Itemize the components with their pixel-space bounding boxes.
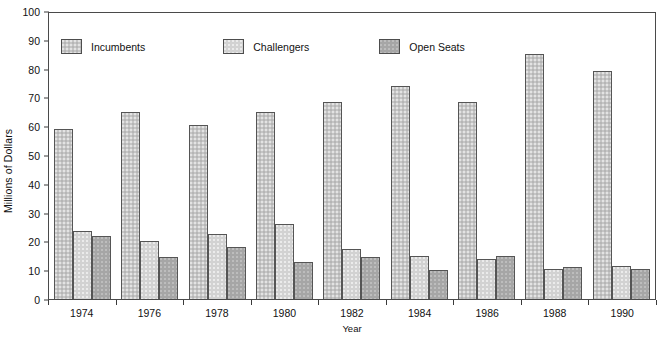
- y-tick-label: 70: [28, 92, 40, 104]
- bar-group: [251, 13, 318, 299]
- bar-groups: [49, 13, 655, 299]
- bar-group: [49, 13, 116, 299]
- bar-open-seats[interactable]: [631, 269, 650, 299]
- bar-open-seats[interactable]: [563, 267, 582, 299]
- x-tick-mark: [656, 300, 657, 305]
- y-tick-label: 50: [28, 150, 40, 162]
- bar-open-seats[interactable]: [496, 256, 515, 299]
- x-tick-mark: [588, 300, 589, 305]
- x-axis-label: 1988: [521, 307, 589, 319]
- y-axis-title: Millions of Dollars: [0, 0, 16, 342]
- x-axis-label: 1990: [589, 307, 657, 319]
- y-tick-label: 10: [28, 265, 40, 277]
- x-axis-label: 1978: [183, 307, 251, 319]
- bar-incumbents[interactable]: [189, 125, 208, 299]
- x-tick-mark: [183, 300, 184, 305]
- x-axis-label: 1984: [386, 307, 454, 319]
- bar-group: [520, 13, 587, 299]
- bar-challengers[interactable]: [73, 231, 92, 299]
- bar-incumbents[interactable]: [593, 71, 612, 299]
- bar-group: [318, 13, 385, 299]
- bar-challengers[interactable]: [477, 259, 496, 299]
- bar-open-seats[interactable]: [227, 247, 246, 299]
- y-tick-label: 40: [28, 179, 40, 191]
- x-tick-mark: [116, 300, 117, 305]
- y-tick-label: 30: [28, 208, 40, 220]
- bar-challengers[interactable]: [140, 241, 159, 299]
- plot-frame: Incumbents Challengers Open Seats: [48, 12, 656, 300]
- x-tick-mark: [521, 300, 522, 305]
- bar-incumbents[interactable]: [458, 102, 477, 299]
- bar-challengers[interactable]: [208, 234, 227, 299]
- bar-open-seats[interactable]: [429, 270, 448, 299]
- bar-chart: Millions of Dollars 01020304050607080901…: [0, 0, 666, 342]
- bar-incumbents[interactable]: [391, 86, 410, 299]
- x-axis-label: 1980: [251, 307, 319, 319]
- bar-incumbents[interactable]: [323, 102, 342, 299]
- bar-open-seats[interactable]: [159, 257, 178, 299]
- bar-incumbents[interactable]: [256, 112, 275, 299]
- y-tick-label: 90: [28, 35, 40, 47]
- bar-challengers[interactable]: [342, 249, 361, 299]
- bar-group: [453, 13, 520, 299]
- x-axis-label: 1976: [116, 307, 184, 319]
- y-tick-label: 80: [28, 64, 40, 76]
- bar-group: [588, 13, 655, 299]
- x-tick-mark: [318, 300, 319, 305]
- y-tick-label: 0: [34, 294, 40, 306]
- x-axis-title: Year: [48, 323, 656, 334]
- x-axis-ticks: [48, 300, 656, 306]
- x-tick-mark: [453, 300, 454, 305]
- bar-challengers[interactable]: [410, 256, 429, 299]
- x-axis-labels: 197419761978198019821984198619881990: [48, 307, 656, 319]
- bar-challengers[interactable]: [544, 269, 563, 299]
- x-axis-label: 1982: [318, 307, 386, 319]
- bar-open-seats[interactable]: [92, 236, 111, 299]
- x-axis-label: 1974: [48, 307, 116, 319]
- x-tick-mark: [48, 300, 49, 305]
- bar-incumbents[interactable]: [54, 129, 73, 299]
- x-tick-mark: [251, 300, 252, 305]
- bar-challengers[interactable]: [275, 224, 294, 299]
- y-tick-label: 20: [28, 236, 40, 248]
- plot-area: Incumbents Challengers Open Seats: [49, 13, 655, 299]
- bar-challengers[interactable]: [612, 266, 631, 299]
- bar-group: [386, 13, 453, 299]
- bar-group: [116, 13, 183, 299]
- bar-open-seats[interactable]: [294, 262, 313, 299]
- x-tick-mark: [386, 300, 387, 305]
- bar-incumbents[interactable]: [121, 112, 140, 299]
- bar-open-seats[interactable]: [361, 257, 380, 299]
- bar-group: [184, 13, 251, 299]
- bar-incumbents[interactable]: [525, 54, 544, 299]
- y-tick-label: 60: [28, 121, 40, 133]
- x-axis-label: 1986: [453, 307, 521, 319]
- y-axis-ticks: 0102030405060708090100: [16, 0, 44, 342]
- y-tick-label: 100: [22, 6, 40, 18]
